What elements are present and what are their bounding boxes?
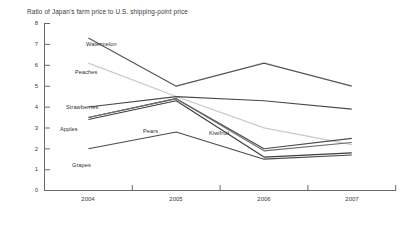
series-layer: [88, 38, 351, 159]
x-tick-label-2004: 2004: [68, 196, 108, 202]
y-tick-label-2: 2: [26, 146, 38, 152]
series-label-kiwifruit: Kiwifruit: [209, 130, 229, 136]
chart-figure: Ratio of Japan's farm price to U.S. ship…: [0, 0, 409, 227]
x-tick-label-2007: 2007: [332, 196, 372, 202]
x-tick-label-2006: 2006: [244, 196, 284, 202]
series-label-apples: Apples: [60, 126, 78, 132]
y-tick-label-6: 6: [26, 62, 38, 68]
y-tick-marks: [45, 24, 51, 191]
series-line-watermelon: [88, 38, 351, 86]
y-tick-label-0: 0: [26, 187, 38, 193]
series-label-pears: Pears: [143, 128, 158, 134]
y-tick-label-3: 3: [26, 125, 38, 131]
series-label-watermelon: Watermelon: [86, 41, 117, 47]
chart-svg: [0, 0, 409, 227]
line-chart-plot: 8 7 6 5 4 3 2 1 0 2004 2005 2006 2007 Wa…: [0, 0, 409, 227]
series-label-strawberries: Strawberries: [66, 104, 98, 110]
y-tick-label-8: 8: [26, 20, 38, 26]
y-tick-label-5: 5: [26, 83, 38, 89]
y-tick-label-4: 4: [26, 104, 38, 110]
x-tick-label-2005: 2005: [156, 196, 196, 202]
series-label-grapes: Grapes: [72, 162, 91, 168]
series-label-peaches: Peaches: [75, 69, 97, 75]
x-tick-marks: [45, 185, 396, 191]
y-tick-label-7: 7: [26, 41, 38, 47]
series-line-strawberries: [88, 97, 351, 110]
y-tick-label-1: 1: [26, 166, 38, 172]
